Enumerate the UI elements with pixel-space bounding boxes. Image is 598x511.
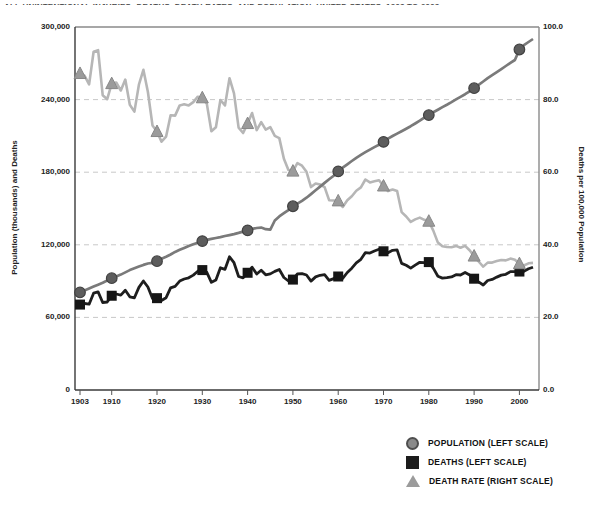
population-marker	[378, 137, 389, 148]
left-axis-title: Population (thousands) and Deaths	[10, 118, 19, 298]
deaths-marker	[469, 274, 479, 284]
legend-label: DEATHS (LEFT SCALE)	[428, 457, 527, 467]
right-axis-tick-label: 20.0	[543, 312, 585, 322]
population-marker	[514, 44, 525, 55]
population-marker	[106, 273, 117, 284]
x-axis-tick-label: 1903	[63, 397, 97, 407]
x-axis-tick-label: 1930	[185, 397, 219, 407]
deaths-marker	[379, 246, 389, 256]
x-axis-tick-label: 2000	[502, 397, 536, 407]
population-marker	[469, 83, 480, 94]
x-axis-tick-label: 1950	[276, 397, 310, 407]
legend-item: DEATH RATE (RIGHT SCALE)	[406, 474, 553, 488]
x-axis-tick-label: 1920	[140, 397, 174, 407]
right-axis-tick-label: 80.0	[543, 95, 585, 105]
deaths-marker	[152, 293, 162, 303]
population-marker	[197, 236, 208, 247]
death-rate-marker	[242, 117, 254, 129]
deaths-marker	[333, 271, 343, 281]
population-marker	[288, 201, 299, 212]
right-axis-tick-label: 100.0	[543, 22, 585, 32]
left-axis-tick-label: 0	[10, 385, 70, 395]
left-axis-tick-label: 300,000	[10, 22, 70, 32]
population-marker	[424, 110, 435, 121]
deaths-marker	[288, 275, 298, 285]
death-rate-line	[80, 50, 533, 266]
right-axis-tick-label: 0.0	[543, 385, 585, 395]
legend-label: DEATH RATE (RIGHT SCALE)	[429, 476, 553, 486]
legend-label: POPULATION (LEFT SCALE)	[428, 438, 548, 448]
left-axis-tick-label: 120,000	[10, 240, 70, 250]
deaths-marker	[75, 300, 85, 310]
x-axis-tick-label: 1960	[321, 397, 355, 407]
x-axis-tick-label: 1980	[412, 397, 446, 407]
legend-marker-circle-icon	[406, 437, 419, 450]
deaths-marker	[243, 268, 253, 278]
deaths-marker	[424, 257, 434, 267]
left-axis-tick-label: 60,000	[10, 312, 70, 322]
right-axis-title: Deaths per 100,000 Population	[577, 120, 586, 290]
x-axis-tick-label: 1970	[367, 397, 401, 407]
legend-marker-triangle-icon	[406, 475, 420, 487]
deaths-line	[80, 249, 533, 304]
population-marker	[75, 287, 86, 298]
deaths-marker	[197, 265, 207, 275]
population-line	[80, 39, 533, 292]
death-rate-marker	[74, 67, 86, 79]
population-marker	[333, 166, 344, 177]
left-axis-tick-label: 180,000	[10, 167, 70, 177]
legend-item: POPULATION (LEFT SCALE)	[406, 436, 553, 450]
legend: POPULATION (LEFT SCALE)DEATHS (LEFT SCAL…	[406, 436, 553, 493]
population-marker	[242, 225, 253, 236]
deaths-marker	[107, 291, 117, 301]
left-axis-tick-label: 240,000	[10, 95, 70, 105]
chart-plot	[0, 0, 598, 511]
population-marker	[152, 256, 163, 267]
x-axis-tick-label: 1910	[95, 397, 129, 407]
x-axis-tick-label: 1990	[457, 397, 491, 407]
legend-item: DEATHS (LEFT SCALE)	[406, 455, 553, 469]
x-axis-tick-label: 1940	[231, 397, 265, 407]
legend-marker-square-icon	[406, 456, 419, 469]
